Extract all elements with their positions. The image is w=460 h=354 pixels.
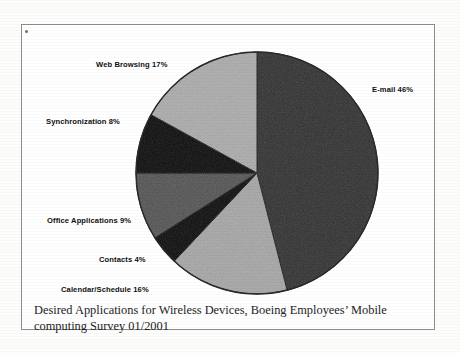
pie-label-synchronization: Synchronization 8% — [46, 117, 120, 126]
pie-slice-group — [136, 52, 378, 294]
pie-label-web-browsing: Web Browsing 17% — [96, 60, 168, 69]
figure-caption: Desired Applications for Wireless Device… — [34, 303, 424, 334]
scanned-page: E-mail 46% Calendar/Schedule 16% Contact… — [0, 0, 460, 354]
pie-chart: E-mail 46% Calendar/Schedule 16% Contact… — [0, 0, 460, 354]
pie-chart-svg — [0, 0, 460, 354]
pie-label-office-applications: Office Applications 9% — [47, 216, 131, 225]
pie-label-contacts: Contacts 4% — [99, 255, 146, 264]
pie-label-email: E-mail 46% — [372, 85, 413, 94]
pie-label-calendar-schedule: Calendar/Schedule 16% — [61, 285, 149, 294]
